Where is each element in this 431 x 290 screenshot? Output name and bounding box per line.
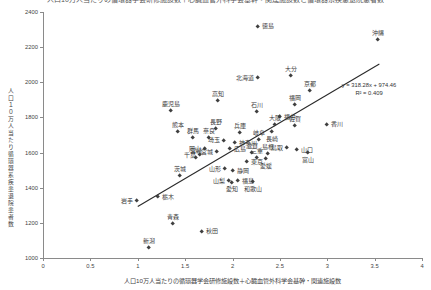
- data-point-label: 広島: [234, 146, 246, 153]
- data-point-label: 福岡: [289, 95, 301, 102]
- data-point-label: 山梨: [213, 178, 225, 185]
- data-point-label: 山形: [209, 166, 221, 173]
- data-point-label: 兵庫: [234, 123, 246, 130]
- data-point-label: 大阪: [269, 115, 281, 122]
- data-point-label: 高知: [212, 91, 224, 98]
- data-point: [231, 169, 235, 173]
- data-point: [178, 174, 182, 178]
- r-squared-text: R² = 0.409: [336, 90, 402, 98]
- data-point-label: 徳島: [262, 23, 274, 30]
- data-point-label: 京都: [304, 81, 316, 88]
- data-point: [135, 199, 139, 203]
- data-point-label: 富山: [302, 157, 314, 164]
- data-point: [169, 109, 173, 113]
- data-point: [245, 160, 249, 164]
- data-point-label: 三重: [251, 148, 263, 155]
- data-point: [200, 230, 204, 234]
- data-point: [251, 180, 255, 184]
- data-point: [230, 181, 234, 185]
- data-point: [147, 246, 151, 250]
- data-point: [256, 76, 260, 80]
- data-point: [223, 167, 227, 171]
- data-point: [270, 130, 274, 134]
- data-point: [285, 146, 289, 150]
- data-point: [214, 127, 218, 131]
- data-point-label: 北海道: [236, 75, 254, 82]
- data-point-label: 石川: [251, 102, 263, 109]
- data-point-label: 佐賀: [289, 116, 301, 123]
- trendline-layer: [0, 0, 431, 290]
- data-point: [273, 123, 277, 127]
- data-point: [238, 131, 242, 135]
- data-point: [233, 141, 237, 145]
- data-point-label: 鹿児島: [162, 101, 180, 108]
- data-point-label: 奈良: [203, 128, 215, 135]
- data-point-label: 長野: [210, 119, 222, 126]
- data-point-label: 東京: [251, 159, 263, 166]
- data-point: [293, 103, 297, 107]
- data-point-label: 栃木: [162, 194, 174, 201]
- data-point-label: 宮崎: [190, 148, 202, 155]
- data-point-label: 茨城: [174, 166, 186, 173]
- regression-equation: y = 318.28x + 974.46 R² = 0.409: [336, 82, 402, 97]
- data-point-label: 静岡: [237, 168, 249, 175]
- data-point: [325, 123, 329, 127]
- data-point-label: 秋田: [206, 228, 218, 235]
- data-point-label: 香川: [331, 121, 343, 128]
- data-point-label: 宮城: [201, 149, 213, 156]
- data-point-label: 群馬: [187, 128, 199, 135]
- data-point-label: 長崎: [266, 136, 278, 143]
- data-point-label: 埼玉: [208, 137, 220, 144]
- data-point: [228, 147, 232, 151]
- data-point: [216, 99, 220, 103]
- data-point: [257, 138, 261, 142]
- data-point: [156, 195, 160, 199]
- data-point: [171, 222, 175, 226]
- data-point: [236, 179, 240, 183]
- data-point-label: 青森: [167, 214, 179, 221]
- data-point: [289, 74, 293, 78]
- data-point: [264, 157, 268, 161]
- data-point-label: 岐阜: [253, 130, 265, 137]
- data-point: [376, 38, 380, 42]
- data-point-label: 熊本: [172, 122, 184, 129]
- data-point: [255, 110, 259, 114]
- data-point-label: 新潟: [143, 238, 155, 245]
- data-point: [295, 148, 299, 152]
- data-point: [256, 25, 260, 29]
- data-point-label: 岩手: [121, 198, 133, 205]
- equation-text: y = 318.28x + 974.46: [336, 82, 402, 90]
- data-point-label: 愛知: [226, 186, 238, 193]
- data-point: [293, 124, 297, 128]
- data-point-label: 大分: [285, 66, 297, 73]
- data-point-label: 和歌山: [244, 186, 262, 193]
- data-point-label: 島根: [262, 144, 274, 151]
- data-point: [266, 152, 270, 156]
- data-point: [176, 130, 180, 134]
- data-point: [222, 139, 226, 143]
- data-point-label: 沖縄: [372, 30, 384, 37]
- scatter-chart: 人口10万人当たりの循環器学会研修施設数＋心臓血管外科学会基幹・関連施設数と循環…: [0, 0, 431, 290]
- data-point: [191, 136, 195, 140]
- data-point: [215, 150, 219, 154]
- data-point: [308, 89, 312, 93]
- data-point: [194, 156, 198, 160]
- data-point: [306, 151, 310, 155]
